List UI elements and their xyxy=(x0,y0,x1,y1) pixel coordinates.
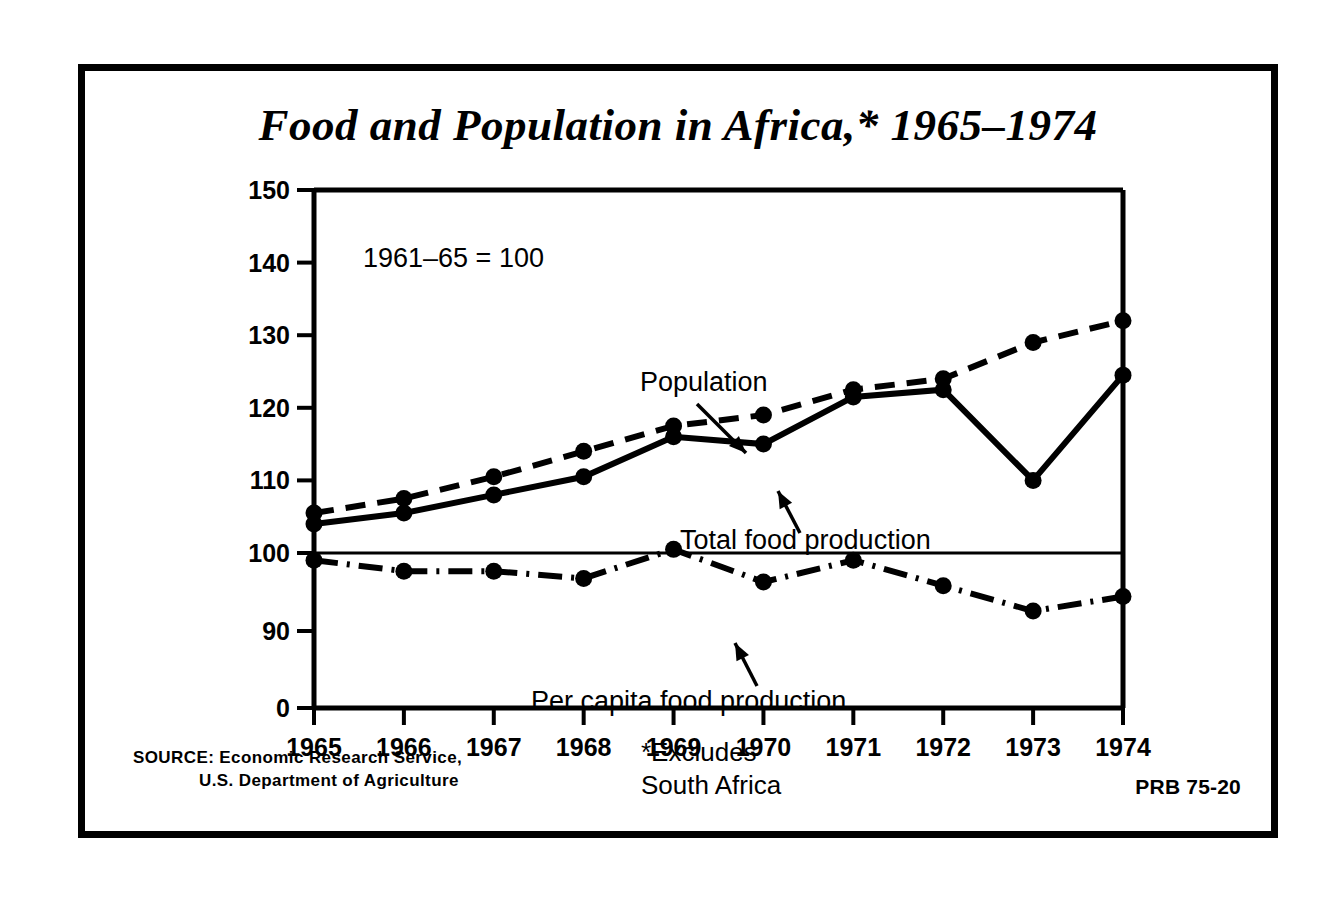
data-point-marker xyxy=(935,381,952,398)
x-axis-tick-label: 1967 xyxy=(466,733,522,761)
source-line-2: U.S. Department of Agriculture xyxy=(133,770,462,793)
y-axis-tick-label: 130 xyxy=(248,321,290,349)
data-point-marker xyxy=(485,468,502,485)
x-axis-tick-label: 1971 xyxy=(826,733,882,761)
source-label: SOURCE: xyxy=(133,748,214,767)
x-axis-tick-label: 1973 xyxy=(1005,733,1061,761)
index-base-note: 1961–65 = 100 xyxy=(363,243,544,273)
data-point-marker xyxy=(665,428,682,445)
y-axis-tick-label: 120 xyxy=(248,394,290,422)
chart-figure: 0901001101201301401501965196619671968196… xyxy=(85,71,1271,831)
series-line-per-capita-food-production xyxy=(314,549,1123,611)
x-axis-tick-label: 1974 xyxy=(1095,733,1151,761)
line-chart-svg: 0901001101201301401501965196619671968196… xyxy=(85,71,1271,831)
footnote: *Excludes South Africa xyxy=(641,736,781,801)
footnote-line-2: South Africa xyxy=(641,769,781,802)
data-point-marker xyxy=(395,490,412,507)
annotation-per-capita-food-production-label: Per capita food production xyxy=(531,686,846,716)
data-point-marker xyxy=(306,552,323,569)
data-point-marker xyxy=(1025,334,1042,351)
data-point-marker xyxy=(1115,588,1132,605)
publication-code: PRB 75-20 xyxy=(1135,775,1241,799)
poster-card: Food and Population in Africa,* 1965–197… xyxy=(78,64,1278,838)
x-axis-tick-label: 1968 xyxy=(556,733,612,761)
data-point-marker xyxy=(755,574,772,591)
data-point-marker xyxy=(935,577,952,594)
series-line-population xyxy=(314,321,1123,513)
y-axis-tick-label: 150 xyxy=(248,176,290,204)
source-credit: SOURCE: Economic Research Service, U.S. … xyxy=(133,747,462,793)
data-point-marker xyxy=(575,570,592,587)
y-axis-tick-label: 90 xyxy=(262,617,290,645)
data-point-marker xyxy=(1025,603,1042,620)
data-point-marker xyxy=(395,505,412,522)
data-point-marker xyxy=(1115,367,1132,384)
annotation-population-label: Population xyxy=(640,367,768,397)
series-line-total-food-production xyxy=(314,375,1123,524)
footnote-line-1: *Excludes xyxy=(641,736,781,769)
source-line-1: Economic Research Service, xyxy=(219,748,462,767)
y-axis-tick-label: 140 xyxy=(248,249,290,277)
data-point-marker xyxy=(485,563,502,580)
y-axis-tick-label: 110 xyxy=(250,466,290,494)
data-point-marker xyxy=(755,407,772,424)
data-point-marker xyxy=(575,443,592,460)
data-point-marker xyxy=(575,468,592,485)
data-point-marker xyxy=(395,563,412,580)
y-axis-tick-label: 0 xyxy=(276,694,290,722)
data-point-marker xyxy=(845,388,862,405)
data-point-marker xyxy=(1025,472,1042,489)
data-point-marker xyxy=(1115,312,1132,329)
y-axis-tick-label: 100 xyxy=(248,539,290,567)
data-point-marker xyxy=(755,436,772,453)
data-point-marker xyxy=(485,486,502,503)
x-axis-tick-label: 1972 xyxy=(915,733,971,761)
data-point-marker xyxy=(306,515,323,532)
annotation-total-food-production-label: Total food production xyxy=(680,525,931,555)
